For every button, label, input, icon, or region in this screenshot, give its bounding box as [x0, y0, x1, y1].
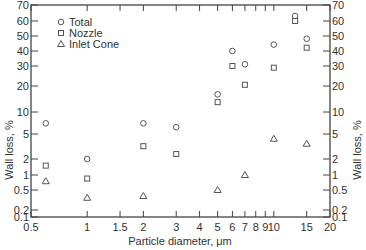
legend: TotalNozzleInlet Cone	[58, 16, 120, 50]
data-point-circle	[141, 121, 147, 127]
y-tick-label-right: 50	[332, 30, 344, 42]
data-point-triangle	[42, 178, 49, 184]
legend-square-icon	[59, 31, 64, 36]
y-axis-right-title: Wall loss, %	[351, 120, 363, 180]
x-axis-title: Particle diameter, μm	[128, 235, 232, 247]
data-point-circle	[84, 156, 90, 162]
y-tick-label-left: 2	[23, 153, 29, 165]
x-tick-label: 1.5	[112, 221, 127, 233]
y-tick-label-left: 40	[17, 45, 29, 57]
data-point-square	[242, 82, 247, 87]
data-point-square	[85, 176, 90, 181]
data-point-square	[215, 100, 220, 105]
y-tick-label-right: 0.5	[332, 184, 347, 196]
y-axis-right-ticks: 0.10.20.512510203040506070	[323, 0, 347, 223]
y-axis-left-ticks: 0.10.20.512510203040506070	[14, 0, 38, 223]
y-tick-label-left: 50	[17, 30, 29, 42]
data-point-circle	[230, 48, 236, 54]
data-point-square	[304, 45, 309, 50]
y-tick-label-right: 30	[332, 60, 344, 72]
x-tick-label: 15	[301, 221, 313, 233]
x-tick-label: 7	[242, 221, 248, 233]
data-point-circle	[292, 13, 298, 19]
legend-circle-icon	[58, 19, 64, 25]
data-point-triangle	[303, 140, 310, 146]
wall-loss-chart: 0.511.523456789101520 0.10.20.5125102030…	[0, 0, 366, 250]
y-tick-label-left: 20	[17, 80, 29, 92]
data-point-square	[293, 19, 298, 24]
y-tick-label-right: 60	[332, 15, 344, 27]
data-point-circle	[304, 36, 310, 42]
legend-item-label: Inlet Cone	[69, 38, 119, 50]
y-tick-label-right: 1	[332, 169, 338, 181]
data-point-square	[271, 65, 276, 70]
y-tick-label-right: 0.2	[332, 204, 347, 216]
x-tick-label: 1	[84, 221, 90, 233]
y-tick-label-left: 30	[17, 60, 29, 72]
y-tick-label-right: 20	[332, 80, 344, 92]
data-point-triangle	[84, 194, 91, 200]
y-tick-label-left: 60	[17, 15, 29, 27]
x-tick-label: 10	[268, 221, 280, 233]
data-point-square	[141, 144, 146, 149]
y-tick-label-left: 10	[17, 106, 29, 118]
data-point-triangle	[140, 192, 147, 198]
y-axis-left-title: Wall loss, %	[3, 120, 15, 180]
y-tick-label-left: 70	[17, 0, 29, 11]
data-point-triangle	[270, 135, 277, 141]
data-point-square	[43, 163, 48, 168]
y-tick-label-right: 40	[332, 45, 344, 57]
x-tick-label: 3	[173, 221, 179, 233]
x-tick-label: 4	[196, 221, 202, 233]
data-point-square	[174, 152, 179, 157]
x-tick-label: 2	[140, 221, 146, 233]
x-tick-label: 8	[253, 221, 259, 233]
data-point-square	[230, 64, 235, 69]
y-tick-label-right: 10	[332, 106, 344, 118]
data-point-triangle	[241, 172, 248, 178]
data-point-circle	[215, 92, 221, 98]
legend-triangle-icon	[58, 41, 65, 47]
y-tick-label-right: 2	[332, 153, 338, 165]
y-tick-label-left: 5	[23, 128, 29, 140]
y-tick-label-left: 0.2	[14, 204, 29, 216]
y-tick-label-left: 0.5	[14, 184, 29, 196]
y-tick-label-right: 70	[332, 0, 344, 11]
data-point-circle	[271, 42, 277, 48]
x-tick-label: 6	[229, 221, 235, 233]
data-point-circle	[242, 61, 248, 67]
chart-canvas: 0.511.523456789101520 0.10.20.5125102030…	[0, 0, 366, 250]
data-point-circle	[173, 124, 179, 130]
y-tick-label-right: 5	[332, 128, 338, 140]
x-tick-label: 5	[215, 221, 221, 233]
y-tick-label-left: 1	[23, 169, 29, 181]
data-point-triangle	[214, 187, 221, 193]
data-point-circle	[43, 121, 49, 127]
